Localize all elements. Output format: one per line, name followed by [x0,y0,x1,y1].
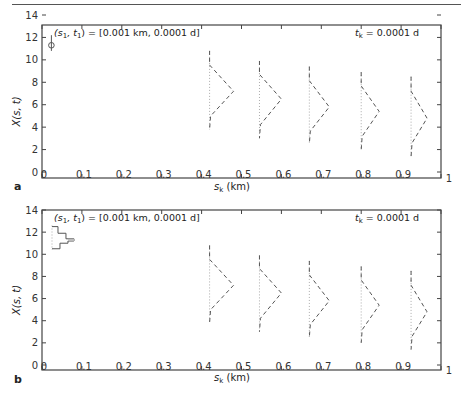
y-axis-label: X(s, t) [11,96,22,127]
x-tick-label: 0.8 [355,361,371,372]
y-tick-label: 14 [25,10,38,21]
profile-density-curve-5 [411,271,427,350]
x-axis-label: sk (km) [214,372,250,385]
profile-density-curve-1 [210,245,234,322]
x-tick-label: 0.6 [275,169,291,180]
y-tick-label: 12 [25,32,38,43]
y-tick-label: 0 [32,360,38,371]
x-tick-label: 0.7 [315,169,331,180]
profile-density-curve-1 [210,51,234,130]
x-tick-label: 0.9 [395,169,411,180]
x-axis-label: sk (km) [214,181,250,194]
y-tick-label: 0 [32,167,38,178]
y-tick-label: 6 [32,293,38,304]
y-tick-label: 14 [25,205,38,216]
x-tick-label: 0.4 [196,361,212,372]
panel-letter: a [14,180,21,193]
y-tick-label: 2 [32,144,38,155]
plot-frame [42,25,441,178]
panel-b: 0246810121400.10.20.30.40.50.60.70.80.91… [11,205,452,387]
x-tick-label: 0.4 [196,169,212,180]
profile-density-curve-4 [361,266,379,342]
y-tick-label: 2 [32,337,38,348]
y-tick-label: 12 [25,227,38,238]
profile-density-curve-4 [361,72,379,149]
y-tick-label: 4 [32,122,38,133]
x-tick-label: 0 [41,361,47,372]
x-tick-label: 0 [41,169,47,180]
x-tick-label: 0.5 [236,169,252,180]
y-tick-label: 4 [32,315,38,326]
x-tick-label: 1 [446,365,452,376]
profile-density-curve-3 [309,261,329,337]
profile-density-curve-2 [259,255,281,331]
y-tick-label: 6 [32,99,38,110]
time-annotation: tk = 0.0001 d [355,27,419,40]
profile-density-curve-2 [259,61,281,138]
x-tick-label: 0.2 [116,361,132,372]
x-tick-label: 0.1 [76,361,92,372]
y-tick-label: 10 [25,249,38,260]
x-tick-label: 0.3 [156,169,172,180]
stochastic-profile-figure: 0246810121400.10.20.30.40.50.60.70.80.91… [0,0,461,395]
y-tick-label: 8 [32,271,38,282]
initial-histogram [52,227,74,249]
profile-density-curve-5 [411,77,427,157]
profile-density-curve-3 [309,67,329,144]
x-tick-label: 0.6 [275,361,291,372]
y-axis-label: X(s, t) [11,285,22,316]
x-tick-label: 1 [446,173,452,184]
initial-condition-annotation: (s1, t1) = [0.001 km, 0.0001 d] [54,27,200,40]
x-tick-label: 0.9 [395,361,411,372]
y-tick-label: 8 [32,77,38,88]
x-tick-label: 0.2 [116,169,132,180]
x-tick-label: 0.8 [355,169,371,180]
time-annotation: tk = 0.0001 d [355,212,419,225]
plot-frame [42,210,441,370]
x-tick-label: 0.7 [315,361,331,372]
y-tick-label: 10 [25,54,38,65]
x-tick-label: 0.1 [76,169,92,180]
x-tick-label: 0.3 [156,361,172,372]
panel-letter: b [14,373,22,386]
initial-histogram-peak [68,239,74,241]
panel-a: 0246810121400.10.20.30.40.50.60.70.80.91… [11,10,452,195]
initial-condition-annotation: (s1, t1) = [0.001 km, 0.0001 d] [54,212,200,225]
x-tick-label: 0.5 [236,361,252,372]
